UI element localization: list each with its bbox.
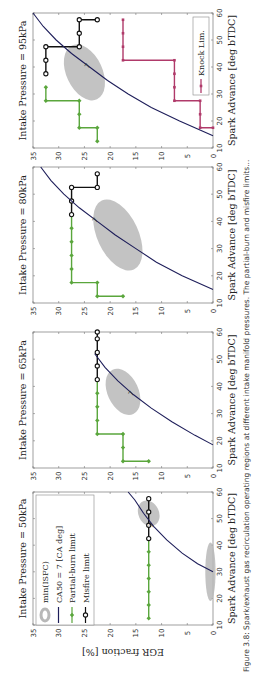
- knock-legend: Knock Lim.: [193, 17, 209, 95]
- x-tick-label: 40: [216, 541, 224, 550]
- y-tick-label: 0: [210, 154, 218, 158]
- knock-marker: [199, 113, 202, 116]
- x-axis-label: Spark Advance [deg bTDC]: [226, 15, 237, 146]
- figure-caption: Figure 3.8: Spark/exhaust gas recirculat…: [242, 160, 251, 672]
- y-tick-label: 0: [210, 474, 218, 478]
- y-tick-label: 35: [30, 629, 38, 638]
- x-tick-label: 60: [216, 163, 224, 172]
- knock-marker: [199, 126, 202, 129]
- misfire-marker: [95, 330, 99, 334]
- y-tick-label: 5: [184, 309, 192, 313]
- misfire-marker: [44, 58, 48, 62]
- x-axis-label: Spark Advance [deg bTDC]: [226, 493, 237, 624]
- panel-title: Intake Pressure = 95kPa: [17, 20, 28, 140]
- x-tick-label: 40: [216, 63, 224, 72]
- misfire-marker: [95, 18, 99, 22]
- y-tick-label: 0: [210, 309, 218, 313]
- x-tick-label: 20: [216, 117, 224, 126]
- misfire-marker: [147, 510, 151, 514]
- y-tick-label: 20: [107, 472, 115, 481]
- figure: Intake Pressure = 50kPa05101520253035102…: [0, 0, 254, 676]
- x-tick-label: 40: [216, 382, 224, 391]
- x-tick-label: 20: [216, 271, 224, 280]
- x-tick-label: 10: [216, 621, 224, 630]
- misfire-marker: [95, 364, 99, 368]
- legend-label: Partial-burn limit: [68, 533, 77, 603]
- x-tick-label: 10: [216, 144, 224, 153]
- y-tick-label: 25: [81, 152, 89, 161]
- y-tick-label: 35: [30, 152, 38, 161]
- x-tick-label: 50: [216, 36, 224, 45]
- x-tick-label: 30: [216, 409, 224, 418]
- y-tick-label: 10: [158, 307, 166, 316]
- misfire-marker: [95, 350, 99, 354]
- misfire-marker: [95, 185, 99, 189]
- knock-marker: [173, 86, 176, 89]
- misfire-marker: [77, 31, 81, 35]
- y-tick-label: 15: [132, 472, 140, 481]
- y-tick-label: 25: [81, 307, 89, 316]
- misfire-marker: [44, 45, 48, 49]
- y-tick-label: 35: [30, 307, 38, 316]
- legend-label: Misfire limit: [82, 552, 91, 603]
- y-tick-label: 10: [158, 629, 166, 638]
- knock-marker: [173, 59, 176, 62]
- legend-label: CA50 = 7 [CA deg]: [55, 526, 64, 603]
- min-isfc-region: [205, 543, 215, 602]
- legend-knock-label: Knock Lim.: [197, 30, 206, 76]
- x-tick-label: 30: [216, 567, 224, 576]
- knock-marker: [122, 45, 125, 48]
- y-tick-label: 5: [184, 631, 192, 635]
- misfire-marker: [147, 497, 151, 501]
- x-tick-label: 60: [216, 488, 224, 497]
- knock-marker: [173, 72, 176, 75]
- y-tick-label: 10: [158, 152, 166, 161]
- misfire-marker: [147, 536, 151, 540]
- y-tick-label: 5: [184, 474, 192, 478]
- knock-marker: [122, 59, 125, 62]
- legend-knock-swatch: [200, 85, 203, 88]
- x-tick-label: 60: [216, 328, 224, 337]
- x-tick-label: 60: [216, 9, 224, 18]
- x-tick-label: 40: [216, 217, 224, 226]
- chart-panel: Intake Pressure = 95kPa05101520253035102…: [17, 9, 237, 161]
- y-tick-label: 15: [132, 307, 140, 316]
- knock-marker: [122, 32, 125, 35]
- y-tick-label: 25: [81, 629, 89, 638]
- chart-panel: Intake Pressure = 50kPa05101520253035102…: [17, 488, 237, 658]
- y-tick-label: 35: [30, 472, 38, 481]
- y-tick-label: 20: [107, 152, 115, 161]
- y-tick-label: 15: [132, 152, 140, 161]
- misfire-marker: [77, 18, 81, 22]
- x-tick-label: 10: [216, 464, 224, 473]
- y-tick-label: 20: [107, 629, 115, 638]
- chart-panel: Intake Pressure = 80kPa05101520253035102…: [17, 163, 237, 316]
- panel-title: Intake Pressure = 50kPa: [17, 498, 28, 618]
- x-axis-label: Spark Advance [deg bTDC]: [226, 169, 237, 300]
- panel-title: Intake Pressure = 65kPa: [17, 340, 28, 460]
- legend-label: min(ISFC): [41, 561, 50, 603]
- panel-title: Intake Pressure = 80kPa: [17, 175, 28, 295]
- x-tick-label: 30: [216, 244, 224, 253]
- y-tick-label: 20: [107, 307, 115, 316]
- chart-panel: Intake Pressure = 65kPa05101520253035102…: [17, 328, 237, 481]
- x-tick-label: 30: [216, 90, 224, 99]
- y-tick-label: 25: [81, 472, 89, 481]
- legend: min(ISFC)CA50 = 7 [CA deg]Partial-burn l…: [36, 495, 94, 625]
- y-tick-label: 15: [132, 629, 140, 638]
- legend-misfire-swatch: [83, 613, 87, 617]
- x-tick-label: 50: [216, 190, 224, 199]
- y-tick-label: 5: [184, 154, 192, 158]
- x-axis-label: Spark Advance [deg bTDC]: [226, 334, 237, 465]
- misfire-marker: [69, 213, 73, 217]
- misfire-marker: [77, 45, 81, 49]
- y-tick-label: 30: [55, 152, 63, 161]
- knock-marker: [173, 99, 176, 102]
- y-axis-label: EGR fraction [%]: [82, 647, 164, 658]
- knock-marker: [212, 126, 215, 129]
- x-tick-label: 50: [216, 514, 224, 523]
- y-tick-label: 0: [210, 631, 218, 635]
- knock-marker: [122, 18, 125, 21]
- y-tick-label: 10: [158, 472, 166, 481]
- y-tick-label: 30: [55, 472, 63, 481]
